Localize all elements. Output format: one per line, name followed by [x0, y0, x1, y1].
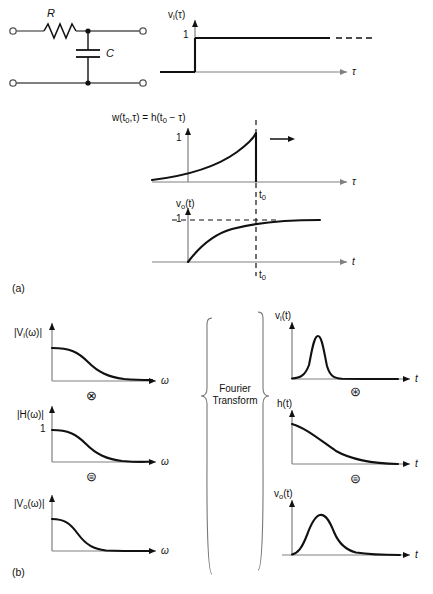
- plot-vo-t-ylabel: vo(t): [274, 489, 293, 501]
- figure-container: R C vi(τ) 1 τ: [0, 0, 433, 594]
- convolution-output-curve: [292, 515, 400, 555]
- panel-b-label: (b): [12, 566, 25, 578]
- plot-vo-t-xlabel: t: [415, 550, 418, 560]
- plot-vo-t-conv: [0, 0, 433, 594]
